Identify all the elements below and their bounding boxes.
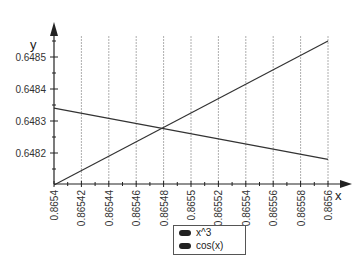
- x-tick-label: 0.86556: [268, 190, 279, 227]
- chart-canvas: 0.86540.865420.865440.865460.865480.8655…: [0, 0, 357, 258]
- x-tick-label: 0.8656: [323, 190, 334, 221]
- x-tick-label: 0.86548: [159, 190, 170, 227]
- x-tick-label: 0.8654: [49, 190, 60, 221]
- legend-item-x3: x^3: [174, 226, 245, 239]
- y-tick-label: 0.6483: [15, 116, 46, 127]
- x-tick-label: 0.86558: [296, 190, 307, 227]
- x-axis-arrow-icon: [340, 180, 352, 188]
- x-axis-label: x: [335, 188, 342, 203]
- y-tick-label: 0.6484: [15, 84, 46, 95]
- y-axis-arrow-icon: [50, 22, 58, 36]
- x-tick-label: 0.86546: [131, 190, 142, 227]
- legend-swatch-icon: [179, 243, 191, 249]
- x-tick-label: 0.86552: [213, 190, 224, 227]
- legend-swatch-icon: [179, 230, 191, 236]
- grid-lines: [81, 36, 328, 184]
- legend-label: x^3: [196, 227, 211, 238]
- x-tick-label: 0.8655: [186, 190, 197, 221]
- legend: x^3 cos(x): [173, 225, 246, 255]
- tick-marks: 0.86540.865420.865440.865460.865480.8655…: [15, 41, 334, 226]
- y-tick-label: 0.6485: [15, 52, 46, 63]
- x-tick-label: 0.86542: [76, 190, 87, 227]
- y-tick-label: 0.6482: [15, 148, 46, 159]
- y-axis-label: y: [30, 37, 37, 52]
- legend-item-cos: cos(x): [174, 239, 245, 252]
- x-tick-label: 0.86544: [104, 190, 115, 227]
- x-tick-label: 0.86554: [241, 190, 252, 227]
- legend-label: cos(x): [196, 240, 223, 251]
